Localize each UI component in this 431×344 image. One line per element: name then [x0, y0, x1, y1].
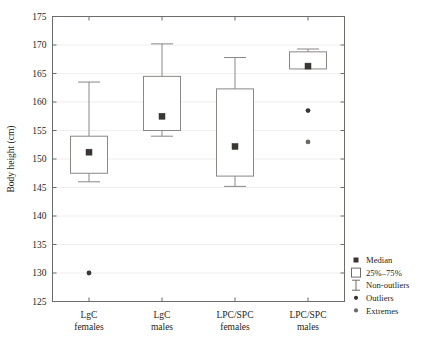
- outlier-point: [306, 108, 311, 113]
- y-tick-label: 125: [32, 297, 47, 307]
- outlier-point: [87, 271, 92, 276]
- box-plot-figure: 125130135140145150155160165170175 LgCfem…: [0, 0, 431, 344]
- extreme-point: [306, 140, 311, 145]
- y-axis-title-text: Body height (cm): [6, 125, 17, 192]
- legend-box-outline-icon: [352, 268, 361, 277]
- x-axis-category-label: males: [297, 322, 319, 332]
- median-marker: [86, 149, 92, 155]
- y-axis-title: Body height (cm): [6, 125, 17, 192]
- x-axis-category-label: males: [151, 322, 173, 332]
- y-tick-label: 170: [32, 40, 47, 50]
- y-tick-label: 175: [32, 12, 47, 22]
- legend-label: 25%–75%: [366, 268, 402, 278]
- legend-median-square-icon: [354, 258, 359, 263]
- x-axis-category-label: females: [220, 322, 250, 332]
- iqr-box: [144, 76, 181, 130]
- x-axis-category-label: LgC: [154, 310, 171, 320]
- y-tick-label: 165: [32, 69, 47, 79]
- x-axis-category-label: LgC: [81, 310, 98, 320]
- median-marker: [305, 63, 311, 69]
- y-tick-label: 145: [32, 183, 47, 193]
- legend-label: Non-outliers: [366, 280, 410, 290]
- legend-label: Median: [366, 255, 393, 265]
- median-marker: [159, 113, 165, 119]
- legend-extreme-star-icon: [354, 308, 358, 312]
- legend-item: 25%–75%: [352, 268, 402, 278]
- y-tick-label: 160: [32, 97, 47, 107]
- legend-outlier-dot-icon: [354, 296, 358, 300]
- legend-label: Extremes: [366, 306, 399, 316]
- y-tick-label: 135: [32, 240, 47, 250]
- median-marker: [232, 143, 238, 149]
- y-tick-label: 130: [32, 268, 47, 278]
- chart-canvas: 125130135140145150155160165170175 LgCfem…: [0, 0, 431, 344]
- x-axis-category-label: LPC/SPC: [217, 310, 254, 320]
- legend-label: Outliers: [366, 293, 394, 303]
- y-tick-label: 150: [32, 154, 47, 164]
- iqr-box: [217, 89, 254, 176]
- x-axis-category-label: females: [74, 322, 104, 332]
- y-tick-label: 155: [32, 126, 47, 136]
- x-axis-category-label: LPC/SPC: [290, 310, 327, 320]
- y-tick-label: 140: [32, 211, 47, 221]
